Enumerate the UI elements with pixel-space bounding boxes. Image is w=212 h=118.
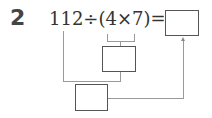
arrow-head-icon	[181, 37, 185, 41]
product-box[interactable]	[102, 46, 136, 72]
quotient-box[interactable]	[75, 84, 108, 111]
answer-box[interactable]	[165, 10, 199, 36]
bracket-bottom	[107, 41, 135, 42]
divide-sign: ÷	[83, 8, 98, 29]
times-sign: ×	[117, 8, 132, 29]
problem-number: 2	[10, 7, 25, 29]
dividend: 112	[49, 8, 83, 29]
math-expression: 112÷(4×7)=	[49, 9, 166, 29]
close-paren: )	[143, 8, 150, 29]
equals-sign: =	[151, 8, 166, 29]
arrow-horizontal	[108, 98, 184, 99]
dividend-leader	[63, 31, 64, 81]
arrow-vertical	[183, 40, 184, 99]
connector-horizontal	[63, 81, 121, 82]
connector-up	[120, 72, 121, 82]
factor-b: 7	[132, 8, 143, 29]
factor-a: 4	[105, 8, 116, 29]
